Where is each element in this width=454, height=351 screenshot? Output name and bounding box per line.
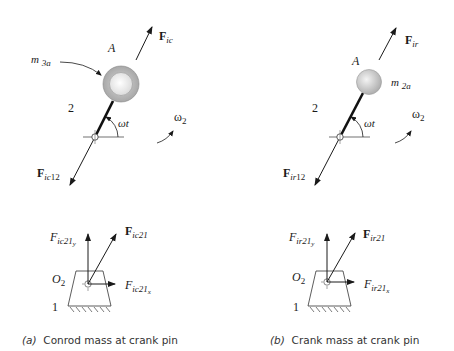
- angle-arc: [351, 117, 363, 137]
- angle-omega-t-label: ωt: [364, 118, 375, 129]
- omega-2-label: ω2: [412, 108, 424, 120]
- mass-leader-arrow: [60, 62, 101, 75]
- force-fic12-label: Fic12: [37, 167, 60, 179]
- diagram-canvas: [0, 0, 454, 351]
- force-fic-label: Fic: [159, 30, 173, 42]
- omega-arrow-icon: [395, 131, 411, 143]
- crank-link: [95, 101, 113, 137]
- link-2-label: 2: [68, 102, 74, 114]
- reaction-arrow-resultant: [327, 233, 355, 282]
- point-a-label: A: [108, 42, 115, 54]
- reaction-resultant-label: Fir21: [363, 228, 385, 240]
- force-fir-label: Fir: [405, 34, 418, 46]
- angle-arc: [106, 117, 118, 137]
- link-2-label: 2: [312, 102, 318, 114]
- force-arrow-fir: [379, 28, 396, 60]
- mass-m2a-label: m 2a: [391, 77, 411, 88]
- force-arrow-fir12: [315, 137, 340, 185]
- reaction-y-label: Fic21y: [50, 231, 76, 243]
- omega-arrow-icon: [157, 131, 173, 143]
- reaction-x-label: Fir21x: [364, 278, 389, 290]
- caption-a: (a) Conrod mass at crank pin: [22, 334, 178, 346]
- force-arrow-fic12: [70, 137, 95, 185]
- ground-block: [68, 271, 111, 306]
- panel-a-link-diagram: [60, 27, 173, 185]
- reaction-x-label: Fic21x: [125, 279, 151, 291]
- point-a-label: A: [352, 55, 359, 67]
- crank-link: [340, 93, 363, 137]
- force-arrow-fic: [136, 27, 152, 60]
- ground-1-label: 1: [293, 301, 299, 313]
- ground-hatch-icon: [310, 307, 350, 312]
- panel-b-link-diagram: [315, 28, 411, 185]
- force-fir12-label: Fir12: [283, 167, 305, 179]
- reaction-arrow-resultant: [88, 234, 116, 284]
- caption-b: (b) Crank mass at crank pin: [270, 334, 419, 346]
- ground-1-label: 1: [52, 301, 58, 313]
- angle-omega-t-label: ωt: [118, 118, 129, 129]
- crank-mass-circle: [357, 70, 382, 95]
- ground-hatch-icon: [70, 307, 110, 312]
- panel-b-ground-fbd: [308, 233, 355, 312]
- ground-pivot-o2-label: O2: [292, 271, 305, 283]
- mass-m3a-label: m 3a: [31, 54, 51, 65]
- reaction-resultant-label: Fic21: [125, 225, 148, 237]
- ground-pivot-o2-label: O2: [52, 273, 65, 285]
- ground-block: [308, 271, 351, 306]
- omega-2-label: ω2: [174, 111, 186, 123]
- reaction-y-label: Fir21y: [289, 231, 314, 243]
